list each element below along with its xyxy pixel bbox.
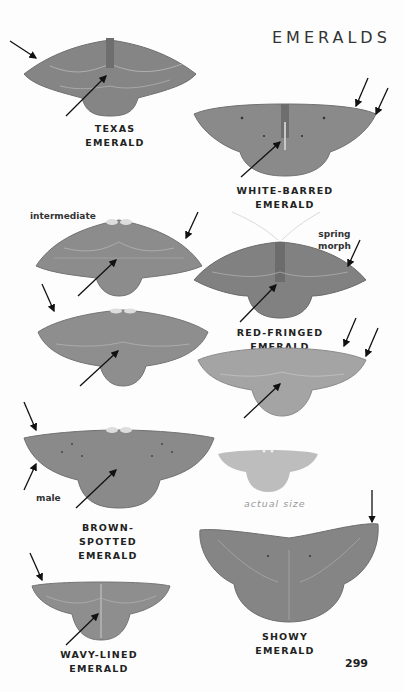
species-label-wavy-lined-line2: EMERALD — [54, 662, 144, 676]
moth-white-barred-emerald — [192, 102, 378, 178]
species-label-brown-spotted-emerald: BROWN-SPOTTED EMERALD — [58, 521, 158, 563]
moth-actual-size — [218, 448, 318, 494]
moth-red-fringed-left — [36, 306, 210, 388]
species-label-texas-emerald: TEXAS EMERALD — [70, 122, 160, 150]
page-number: 299 — [345, 657, 368, 670]
species-label-brown-spotted-line1: BROWN-SPOTTED — [58, 521, 158, 549]
species-label-wavy-lined-line1: WAVY-LINED — [54, 648, 144, 662]
moth-showy-emerald — [198, 520, 380, 624]
moth-red-fringed-right — [196, 346, 368, 418]
field-guide-page: EMERALDS TEXAS EMERALD WHITE-BARRED EMER… — [0, 0, 404, 692]
species-label-wavy-lined-emerald: WAVY-LINED EMERALD — [54, 648, 144, 676]
moth-texas-emerald — [20, 36, 200, 120]
actual-size-caption: actual size — [244, 498, 306, 509]
species-label-showy-emerald: SHOWY EMERALD — [240, 630, 330, 658]
page-title: EMERALDS — [272, 28, 391, 47]
note-male: male — [36, 492, 61, 504]
species-label-brown-spotted-line2: EMERALD — [58, 549, 158, 563]
moth-wavy-lined-emerald — [30, 580, 172, 642]
species-label-white-barred-emerald: WHITE-BARRED EMERALD — [220, 184, 350, 212]
moth-red-fringed-intermediate — [34, 218, 204, 298]
moth-red-fringed-spring — [192, 216, 368, 320]
